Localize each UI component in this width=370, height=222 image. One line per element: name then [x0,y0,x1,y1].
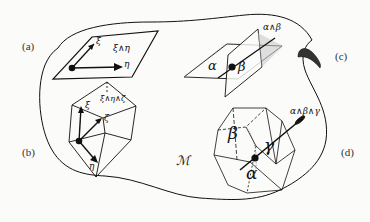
trivector-wedge-label: ξ∧η∧ζ [100,94,125,103]
panel-label-c: (c) [335,50,347,62]
vector-eta-label-b: η [89,161,94,171]
manifold-label: ℳ [176,153,190,168]
form-alpha-label-d: α [246,163,257,183]
form-beta-label-d: β [228,123,238,143]
panel-a-bivector [53,31,158,79]
panel-label-d: (d) [341,146,354,158]
vector-eta-label: η [124,59,129,69]
form-gamma-label-d: γ [264,135,274,155]
three-form-wedge-label: α∧β∧γ [290,106,320,116]
form-beta-label: β [238,59,246,74]
manifold-boundary [40,14,327,199]
two-form-wedge-label: α∧β [263,22,281,32]
manifold-diagram: (a) (b) (c) (d) ℳ ξ ξ∧η η ξ ξ∧η∧ζ ζ η α … [0,0,370,222]
form-alpha-label: α [208,58,217,73]
panel-label-b: (b) [22,146,35,158]
vector-xi-label-b: ξ [85,100,90,110]
panel-d-three-form [214,108,306,193]
manifold-curl [298,49,321,68]
panel-c-two-form [184,29,283,97]
panel-label-a: (a) [22,40,34,52]
vector-zeta-label: ζ [104,113,109,123]
bivector-wedge-label: ξ∧η [113,43,130,53]
vector-xi-label: ξ [96,36,101,46]
